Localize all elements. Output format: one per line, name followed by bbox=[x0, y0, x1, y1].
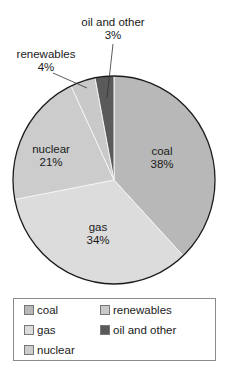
pie-chart: oil and other 3% renewables 4% nuclear 2… bbox=[0, 0, 229, 290]
label-gas-name: gas bbox=[89, 221, 108, 233]
label-renewables-pct: 4% bbox=[38, 61, 55, 73]
label-coal-pct: 38% bbox=[150, 158, 173, 170]
label-oil-pct: 3% bbox=[105, 29, 122, 41]
legend-swatch-gas bbox=[24, 325, 34, 335]
legend-item-nuclear: nuclear bbox=[24, 344, 75, 356]
legend-swatch-oil-and-other bbox=[100, 325, 110, 335]
label-coal-name: coal bbox=[151, 145, 172, 157]
legend-swatch-nuclear bbox=[24, 345, 34, 355]
label-gas-pct: 34% bbox=[86, 234, 109, 246]
legend-label-renewables: renewables bbox=[113, 304, 172, 316]
legend-label-nuclear: nuclear bbox=[37, 344, 75, 356]
legend-label-coal: coal bbox=[37, 304, 58, 316]
legend-label-oil-and-other: oil and other bbox=[113, 324, 176, 336]
legend-item-oil-and-other: oil and other bbox=[100, 324, 176, 336]
legend-item-gas: gas bbox=[24, 324, 56, 336]
pie-slices bbox=[13, 76, 215, 284]
legend-item-coal: coal bbox=[24, 304, 58, 316]
label-nuclear-name: nuclear bbox=[32, 143, 70, 155]
legend-item-renewables: renewables bbox=[100, 304, 172, 316]
label-nuclear-pct: 21% bbox=[39, 156, 62, 168]
chart-legend: coal gas nuclear renewables oil and othe… bbox=[13, 298, 216, 361]
legend-label-gas: gas bbox=[37, 324, 56, 336]
legend-swatch-renewables bbox=[100, 305, 110, 315]
label-oil-name: oil and other bbox=[81, 16, 144, 28]
label-renewables-name: renewables bbox=[17, 48, 76, 60]
legend-swatch-coal bbox=[24, 305, 34, 315]
